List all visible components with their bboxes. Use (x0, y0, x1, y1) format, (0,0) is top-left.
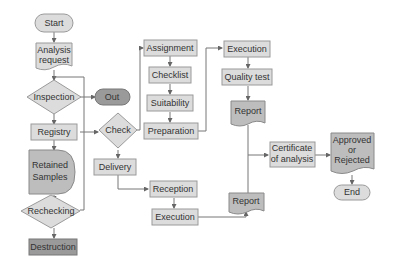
svg-text:request: request (39, 55, 70, 65)
node-check[interactable]: Check (99, 113, 137, 148)
node-execution-bottom[interactable]: Execution (152, 209, 198, 225)
node-approved-rejected[interactable]: Approved or Rejected (331, 133, 374, 174)
node-assignment[interactable]: Assignment (144, 40, 197, 56)
svg-text:Execution: Execution (155, 212, 195, 222)
svg-text:Samples: Samples (32, 172, 68, 182)
svg-text:Report: Report (232, 196, 260, 206)
node-reception[interactable]: Reception (150, 181, 197, 197)
svg-text:Destruction: Destruction (30, 242, 76, 252)
node-end[interactable]: End (334, 185, 370, 200)
node-retained-samples[interactable]: Retained Samples (29, 150, 75, 194)
svg-text:Out: Out (105, 92, 120, 102)
node-checklist[interactable]: Checklist (149, 67, 191, 83)
node-destruction[interactable]: Destruction (29, 239, 77, 255)
node-certificate[interactable]: Certificate of analysis (270, 142, 315, 167)
svg-text:of analysis: of analysis (271, 154, 314, 164)
node-report-bottom[interactable]: Report (229, 193, 264, 214)
svg-text:Inspection: Inspection (33, 92, 74, 102)
node-report-top[interactable]: Report (231, 101, 265, 126)
svg-text:or: or (348, 145, 356, 155)
svg-text:End: End (344, 187, 360, 197)
node-registry[interactable]: Registry (31, 124, 77, 140)
svg-text:Suitability: Suitability (151, 98, 190, 108)
svg-text:Approved: Approved (333, 135, 372, 145)
svg-text:Execution: Execution (227, 44, 267, 54)
svg-text:Certificate: Certificate (272, 143, 313, 153)
node-quality-test[interactable]: Quality test (222, 69, 272, 85)
svg-text:Checklist: Checklist (152, 70, 189, 80)
svg-text:Report: Report (234, 106, 262, 116)
node-delivery[interactable]: Delivery (94, 159, 136, 175)
svg-text:Delivery: Delivery (99, 162, 132, 172)
node-out[interactable]: Out (95, 89, 130, 105)
node-inspection[interactable]: Inspection (27, 80, 81, 114)
svg-text:Retained: Retained (32, 160, 68, 170)
svg-text:Rechecking: Rechecking (27, 206, 74, 216)
node-preparation[interactable]: Preparation (144, 123, 198, 139)
node-start[interactable]: Start (35, 14, 73, 32)
svg-text:Reception: Reception (153, 184, 194, 194)
node-rechecking[interactable]: Rechecking (21, 195, 80, 228)
svg-text:Analysis: Analysis (37, 45, 71, 55)
svg-text:Start: Start (44, 18, 64, 28)
svg-text:Check: Check (105, 125, 131, 135)
svg-text:Preparation: Preparation (148, 126, 195, 136)
node-execution-top[interactable]: Execution (224, 41, 270, 57)
svg-text:Assignment: Assignment (146, 43, 194, 53)
svg-text:Registry: Registry (37, 127, 71, 137)
svg-text:Rejected: Rejected (334, 155, 370, 165)
node-analysis-request[interactable]: Analysis request (36, 43, 72, 70)
flowchart-canvas: Start Analysis request Inspection Out Re… (0, 0, 395, 268)
svg-text:Quality test: Quality test (224, 72, 270, 82)
node-suitability[interactable]: Suitability (147, 95, 193, 111)
connectors (54, 32, 352, 238)
